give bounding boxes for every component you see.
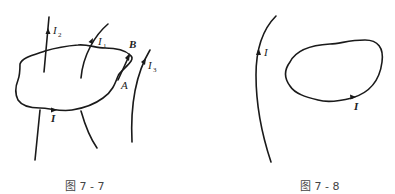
arrow-B-icon [125, 53, 130, 61]
arrow-I1-icon [89, 38, 94, 44]
arrow-I2-icon [46, 28, 51, 34]
wire-I-right [81, 111, 97, 148]
arrow-loop-I-icon [350, 95, 356, 100]
label-I3-sub: 3 [153, 66, 157, 74]
caption-7-8: 图 7 - 8 [300, 180, 339, 193]
arrow-wire-I-icon [256, 48, 261, 55]
label-B: B [128, 38, 136, 50]
wire-I2 [44, 17, 49, 72]
caption-7-7: 图 7 - 7 [65, 180, 104, 193]
figure-7-7: I 2 I 1 I 3 B A I 图 7 - 7 [16, 17, 157, 193]
label-loop-I: I [353, 100, 359, 112]
diagram-canvas: I 2 I 1 I 3 B A I 图 7 - 7 I I 图 7 - 8 [0, 0, 395, 194]
wire-I-left [35, 110, 40, 160]
wire-I-7-8 [256, 16, 276, 162]
closed-loop-7-8 [286, 40, 383, 101]
label-I2-sub: 2 [58, 31, 62, 39]
figure-7-8: I I 图 7 - 8 [256, 16, 382, 193]
label-I1-sub: 1 [103, 42, 107, 50]
wire-I1 [81, 24, 108, 78]
closed-loop-7-7 [16, 45, 132, 111]
label-wire-I: I [263, 46, 269, 58]
label-I: I [50, 112, 56, 124]
label-A: A [120, 79, 128, 91]
